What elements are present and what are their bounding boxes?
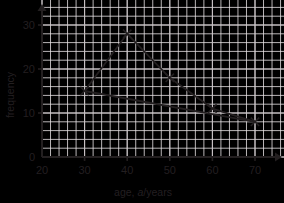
y-tick-label: 0 (29, 151, 35, 163)
x-tick-label: 70 (249, 164, 261, 176)
chart-container: 0102030203040506070 age, a/years frequen… (0, 0, 284, 203)
x-axis-title: age, a/years (114, 186, 172, 198)
x-tick-label: 30 (78, 164, 90, 176)
y-tick-label: 10 (23, 107, 35, 119)
x-tick-label: 60 (206, 164, 218, 176)
frequency-polygon-chart: 0102030203040506070 age, a/years frequen… (0, 0, 284, 203)
x-tick-label: 40 (121, 164, 133, 176)
x-tick-label: 50 (164, 164, 176, 176)
y-tick-label: 30 (23, 19, 35, 31)
y-axis-title: frequency (4, 71, 16, 118)
x-tick-label: 20 (36, 164, 48, 176)
y-tick-label: 20 (23, 63, 35, 75)
